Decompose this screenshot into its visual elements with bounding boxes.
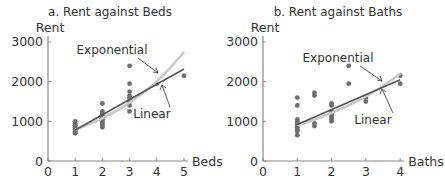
exponential-arrow [360,66,382,81]
linear-arrow [382,89,393,113]
data-point [73,130,78,135]
x-tick-label: 4 [396,164,404,179]
data-point [329,101,334,106]
linear-label: Linear [133,107,170,121]
data-point [295,103,300,108]
x-tick-label: 4 [153,164,161,179]
x-tick-label: 3 [126,164,134,179]
exponential-label: Exponential [303,51,374,65]
y-tick-label: 0 [250,154,258,169]
data-point [127,63,132,68]
linear-label: Linear [354,113,391,127]
y-tick-label: 2000 [226,74,258,89]
chart-panel-2: b. Rent against Baths010002000300001234R… [226,5,444,179]
data-point [398,81,403,86]
y-tick-label: 1000 [226,114,258,129]
x-tick-label: 1 [71,164,79,179]
data-point [312,121,317,126]
x-axis-label: Baths [408,154,444,169]
x-tick-label: 2 [98,164,106,179]
exponential-label: Exponential [77,43,148,57]
linear-arrow [162,85,170,107]
figure: a. Rent against Beds0100020003000012345R… [0,0,445,187]
data-point [295,117,300,122]
chart-title: b. Rent against Baths [274,5,403,19]
data-point [73,119,78,124]
x-tick-label: 3 [362,164,370,179]
x-axis-label: Beds [192,154,223,169]
y-tick-label: 3000 [11,34,43,49]
y-axis-label: Rent [251,20,280,35]
x-tick-label: 0 [44,164,52,179]
y-tick-label: 1000 [11,114,43,129]
chart-panel-1: a. Rent against Beds0100020003000012345R… [11,5,223,179]
y-tick-label: 3000 [226,34,258,49]
data-point [127,81,132,86]
exponential-arrow [138,58,158,73]
data-point [182,73,187,78]
x-tick-label: 0 [259,164,267,179]
data-point [127,109,132,114]
data-point [312,90,317,95]
data-point [295,95,300,100]
y-tick-label: 2000 [11,74,43,89]
data-point [346,81,351,86]
data-point [127,89,132,94]
y-axis-label: Rent [36,20,65,35]
y-tick-label: 0 [35,154,43,169]
data-point [100,101,105,106]
x-tick-label: 2 [328,164,336,179]
x-tick-label: 5 [180,164,188,179]
x-tick-label: 1 [293,164,301,179]
chart-title: a. Rent against Beds [48,5,172,19]
